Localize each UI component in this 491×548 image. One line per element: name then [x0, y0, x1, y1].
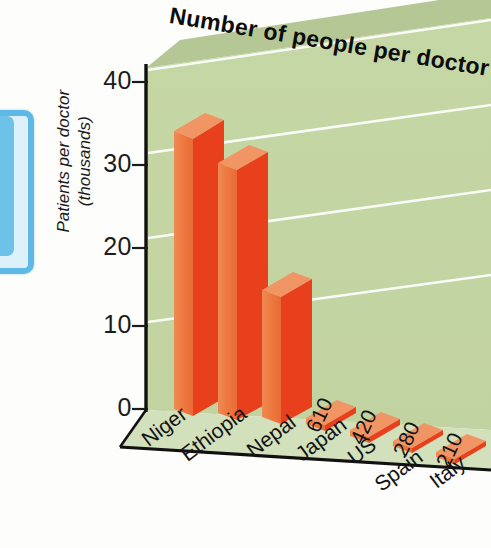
bar-ethiopia[interactable]	[218, 145, 268, 420]
chart-figure: 40 30 20 10 0 Patients per doctor (thous…	[0, 0, 491, 548]
y-tick-label: 10	[103, 310, 132, 339]
y-tick-label: 0	[118, 393, 132, 422]
y-axis-title-line1: Patients per doctor	[53, 51, 74, 271]
y-axis-title: Patients per doctor (thousands)	[53, 51, 96, 271]
y-axis-title-line2: (thousands)	[74, 51, 95, 271]
y-tick-label: 30	[103, 149, 132, 178]
y-tick-label: 20	[103, 232, 132, 261]
y-tick-label: 40	[103, 66, 132, 95]
bar-nepal[interactable]	[262, 272, 312, 424]
bar-niger[interactable]	[174, 113, 224, 416]
